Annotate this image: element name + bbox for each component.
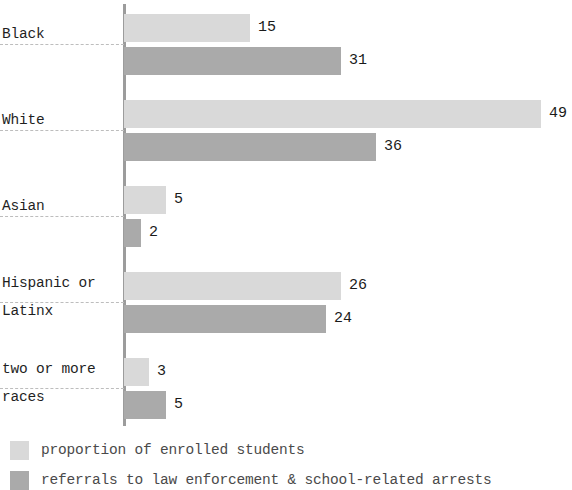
bar-races-enrolled[interactable] bbox=[124, 358, 149, 386]
category-label-hispanic-line2: Latinx bbox=[2, 302, 122, 321]
leader-line-asian bbox=[0, 216, 124, 217]
bar-black-referrals[interactable] bbox=[124, 47, 341, 75]
bar-value-hispanic-enrolled: 26 bbox=[349, 278, 367, 294]
bar-black-enrolled[interactable] bbox=[124, 14, 250, 42]
bar-group-asian: Asian 5 2 bbox=[0, 172, 572, 258]
legend-item-referrals[interactable]: referrals to law enforcement & school-re… bbox=[10, 467, 572, 490]
chart-legend: proportion of enrolled students referral… bbox=[10, 437, 572, 490]
category-label-asian: Asian bbox=[2, 197, 122, 216]
leader-line-white bbox=[0, 130, 124, 131]
category-label-races-line2: races bbox=[2, 388, 122, 407]
bar-value-races-enrolled: 3 bbox=[157, 364, 166, 380]
bar-value-black-referrals: 31 bbox=[349, 53, 367, 69]
bar-value-white-referrals: 36 bbox=[384, 139, 402, 155]
bar-asian-enrolled[interactable] bbox=[124, 186, 166, 214]
bar-hispanic-enrolled[interactable] bbox=[124, 272, 341, 300]
bar-value-black-enrolled: 15 bbox=[258, 20, 276, 36]
category-label-asian-line1: Asian bbox=[2, 198, 45, 214]
category-label-black: Black bbox=[2, 25, 122, 44]
bar-value-hispanic-referrals: 24 bbox=[334, 311, 352, 327]
bar-value-asian-enrolled: 5 bbox=[174, 192, 183, 208]
bar-group-white: White 49 36 bbox=[0, 86, 572, 172]
category-label-two-or-more-races: two or more races bbox=[2, 360, 122, 407]
legend-item-enrolled[interactable]: proportion of enrolled students bbox=[10, 437, 572, 467]
category-label-black-line1: Black bbox=[2, 26, 45, 42]
category-label-white: White bbox=[2, 111, 122, 130]
bar-group-hispanic-or-latinx: Hispanic or Latinx 26 24 bbox=[0, 258, 572, 344]
bar-white-enrolled[interactable] bbox=[124, 100, 541, 128]
bar-asian-referrals[interactable] bbox=[124, 219, 141, 247]
category-label-white-line1: White bbox=[2, 112, 45, 128]
bar-value-white-enrolled: 49 bbox=[549, 106, 567, 122]
leader-line-black bbox=[0, 44, 124, 45]
bar-group-two-or-more-races: two or more races 3 5 bbox=[0, 344, 572, 430]
bar-group-black: Black 15 31 bbox=[0, 0, 572, 86]
bar-white-referrals[interactable] bbox=[124, 133, 376, 161]
bar-races-referrals[interactable] bbox=[124, 391, 166, 419]
bar-hispanic-referrals[interactable] bbox=[124, 305, 326, 333]
legend-label-referrals: referrals to law enforcement & school-re… bbox=[41, 471, 492, 490]
category-label-races-line1: two or more bbox=[2, 360, 122, 379]
legend-label-enrolled: proportion of enrolled students bbox=[41, 441, 305, 460]
category-label-hispanic-or-latinx: Hispanic or Latinx bbox=[2, 274, 122, 321]
legend-swatch-enrolled-icon bbox=[10, 441, 29, 460]
bar-value-races-referrals: 5 bbox=[174, 397, 183, 413]
plot-area: Black 15 31 White 49 36 bbox=[0, 0, 572, 430]
category-label-hispanic-line1: Hispanic or bbox=[2, 274, 122, 293]
chart-page: Black 15 31 White 49 36 bbox=[0, 0, 572, 490]
legend-swatch-referrals-icon bbox=[10, 471, 29, 490]
bar-value-asian-referrals: 2 bbox=[149, 225, 158, 241]
